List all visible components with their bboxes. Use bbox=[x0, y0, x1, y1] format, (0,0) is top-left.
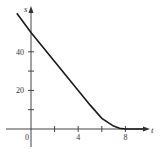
x-axis-label: t bbox=[151, 125, 154, 135]
x-tick-label: 8 bbox=[123, 133, 127, 142]
data-line bbox=[17, 13, 143, 129]
chart: s t 482040 0 bbox=[0, 0, 162, 153]
y-tick-label: 40 bbox=[16, 48, 24, 57]
y-axis-label: s bbox=[24, 4, 28, 14]
ticks: 482040 bbox=[16, 48, 127, 142]
y-tick-label: 20 bbox=[16, 86, 24, 95]
origin-label: 0 bbox=[25, 133, 29, 142]
x-tick-label: 4 bbox=[76, 133, 80, 142]
x-axis-arrow-icon bbox=[143, 127, 150, 132]
y-axis-arrow-icon bbox=[29, 6, 34, 13]
